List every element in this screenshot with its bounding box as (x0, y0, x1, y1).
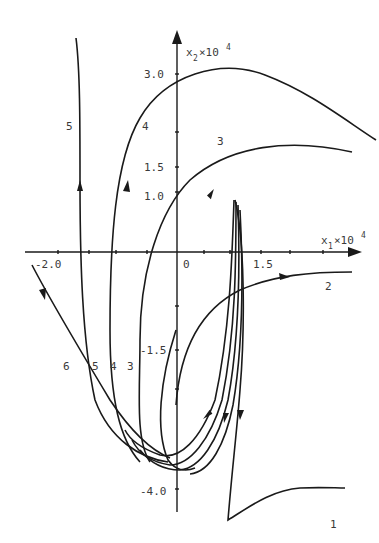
bottom-label-5: 5 (92, 360, 99, 373)
trajectory-label-5: 5 (66, 120, 73, 133)
trajectory-label-4: 4 (142, 120, 149, 133)
svg-text:1: 1 (328, 242, 333, 251)
bottom-label-4: 4 (110, 360, 117, 373)
svg-text:4: 4 (361, 231, 366, 240)
bottom-label-3: 3 (127, 360, 134, 373)
x2-axis-label: x 2 ×10 4 (186, 43, 231, 63)
y-tick-label: 3.0 (144, 68, 164, 81)
arrow-icon (279, 273, 290, 280)
trajectory-label-1: 1 (330, 518, 337, 531)
x-tick-label: 0 (183, 258, 190, 271)
trajectory-3 (139, 145, 352, 462)
y-tick-label: 1.5 (144, 161, 164, 174)
y-tick-label: 1.0 (144, 190, 164, 203)
arrow-icon (39, 288, 46, 300)
svg-text:×10: ×10 (199, 46, 219, 59)
arrow-icon (123, 180, 130, 192)
trajectory-label-3: 3 (217, 135, 224, 148)
svg-text:x: x (186, 46, 193, 59)
x1-axis-label: x 1 ×10 4 (321, 231, 366, 251)
svg-text:x: x (321, 234, 328, 247)
x-tick-label: -2.0 (35, 258, 62, 271)
x-tick-label: 1.5 (253, 258, 273, 271)
arrow-icon (206, 189, 218, 200)
y-tick-label: -1.5 (140, 344, 167, 357)
trajectory-5 (76, 38, 168, 462)
phase-portrait-diagram: x 2 ×10 4 x 1 ×10 4 -2.0 0 1.5 3.0 1.5 1… (0, 0, 379, 543)
trajectory-6 (32, 265, 170, 458)
svg-text:×10: ×10 (334, 234, 354, 247)
svg-text:4: 4 (226, 43, 231, 52)
arrow-icon (77, 180, 83, 191)
spiral-loops (125, 200, 242, 474)
bottom-label-6: 6 (63, 360, 70, 373)
y-tick-label: -4.0 (140, 485, 167, 498)
x2-axis-arrow-icon (172, 30, 182, 44)
svg-text:2: 2 (193, 54, 198, 63)
trajectory-label-2: 2 (325, 280, 332, 293)
x1-axis-arrow-icon (348, 247, 362, 257)
